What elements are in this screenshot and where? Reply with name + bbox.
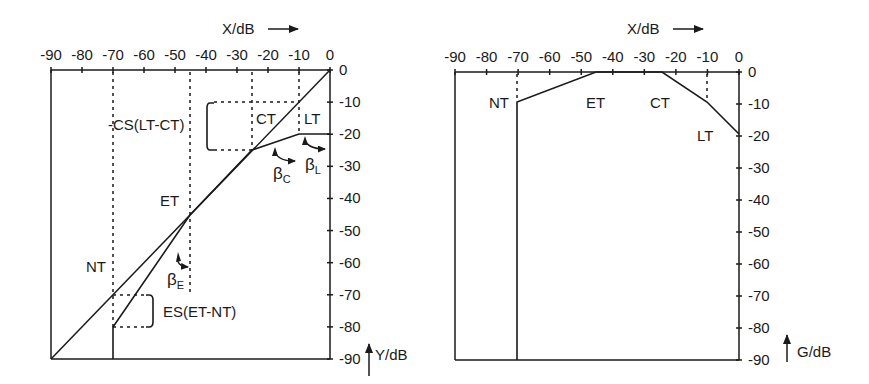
label-nt: NT	[489, 94, 509, 111]
y-tick-label: -30	[339, 157, 361, 174]
right-y-axis-title: G/dB	[797, 343, 831, 360]
y-tick-label: -80	[748, 319, 770, 336]
y-tick-label: 0	[748, 63, 756, 80]
left-x-axis-ticks: -90-80-70-60-50-40-30-20-100	[40, 46, 334, 73]
label-lt: LT	[304, 110, 320, 127]
beta-l-arc-arrow	[305, 139, 325, 149]
x-tick-label: 0	[326, 46, 334, 63]
x-tick-label: -40	[602, 48, 624, 65]
y-tick-label: -20	[748, 127, 770, 144]
cs-bracket	[207, 103, 214, 150]
x-tick-label: -20	[257, 46, 279, 63]
beta-c-arc-arrow	[275, 150, 295, 161]
x-tick-label: -90	[40, 46, 62, 63]
x-tick-label: -80	[476, 48, 498, 65]
y-tick-label: -80	[339, 318, 361, 335]
label-ct: CT	[650, 94, 670, 111]
es-bracket	[146, 295, 153, 327]
beta-l-arrowhead-up	[302, 136, 308, 145]
x-tick-label: -10	[697, 48, 719, 65]
characteristic-curve	[113, 134, 330, 359]
y-tick-label: -70	[339, 286, 361, 303]
figure: X/dB -90-80-70-60-50-40-30-20-100 0-10-2…	[0, 0, 869, 384]
right-frame	[455, 72, 739, 360]
x-tick-label: -30	[226, 46, 248, 63]
x-tick-label: -70	[507, 48, 529, 65]
x-tick-label: -60	[133, 46, 155, 63]
right-y-axis-ticks: 0-10-20-30-40-50-60-70-80-90	[736, 63, 770, 368]
x-tick-label: -90	[444, 48, 466, 65]
right-x-axis-title: X/dB	[627, 20, 660, 37]
x-tick-label: -50	[164, 46, 186, 63]
x-tick-label: -60	[539, 48, 561, 65]
x-tick-label: -10	[288, 46, 310, 63]
y-tick-label: -90	[339, 350, 361, 367]
y-tick-label: -40	[339, 189, 361, 206]
x-tick-label: -30	[633, 48, 655, 65]
y-tick-label: -50	[748, 223, 770, 240]
beta-e-arrowhead-up	[176, 252, 181, 262]
x-tick-label: -50	[570, 48, 592, 65]
right-x-axis-ticks: -90-80-70-60-50-40-30-20-100	[444, 48, 743, 75]
beta-c-label: βC	[273, 164, 291, 185]
label-et: ET	[160, 192, 179, 209]
x-tick-label: -40	[195, 46, 217, 63]
label-expansion-slope: ES(ET-NT)	[163, 303, 236, 320]
y-tick-label: -30	[748, 159, 770, 176]
label-nt: NT	[86, 258, 106, 275]
label-lt: LT	[697, 127, 713, 144]
y-tick-label: -60	[339, 254, 361, 271]
left-x-axis-title: X/dB	[222, 20, 255, 37]
label-compression-slope: -CS(LT-CT)	[108, 116, 184, 133]
y-tick-label: 0	[339, 61, 347, 78]
x-tick-label: -80	[71, 46, 93, 63]
y-tick-label: -40	[748, 191, 770, 208]
left-chart-compressor-characteristic: X/dB -90-80-70-60-50-40-30-20-100 0-10-2…	[40, 20, 407, 376]
y-tick-label: -90	[748, 351, 770, 368]
label-ct: CT	[256, 110, 276, 127]
x-tick-label: -20	[665, 48, 687, 65]
label-et: ET	[586, 94, 605, 111]
beta-e-label: βE	[167, 270, 184, 291]
gain-curve	[517, 72, 739, 360]
right-threshold-lines	[517, 74, 707, 102]
y-tick-label: -20	[339, 125, 361, 142]
y-tick-label: -10	[339, 93, 361, 110]
right-chart-gain-characteristic: X/dB -90-80-70-60-50-40-30-20-100 0-10-2…	[444, 20, 831, 368]
y-tick-label: -50	[339, 222, 361, 239]
left-y-axis-ticks: 0-10-20-30-40-50-60-70-80-90	[327, 61, 361, 367]
y-tick-label: -10	[748, 95, 770, 112]
x-tick-label: 0	[735, 48, 743, 65]
y-tick-label: -70	[748, 287, 770, 304]
beta-l-label: βL	[305, 155, 321, 176]
left-y-axis-title: Y/dB	[375, 346, 408, 363]
x-tick-label: -70	[102, 46, 124, 63]
y-tick-label: -60	[748, 255, 770, 272]
beta-c-arrowhead-up	[272, 147, 278, 156]
